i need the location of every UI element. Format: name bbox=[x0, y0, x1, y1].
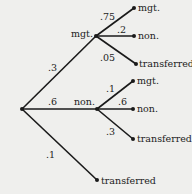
prob-root-mgt: .3 bbox=[48, 62, 57, 73]
prob-mgt-transferred: .05 bbox=[100, 52, 115, 63]
prob-mgt-mgt: .75 bbox=[100, 11, 115, 22]
leaf-non-transferred: transferred bbox=[137, 133, 192, 144]
leaf-non-non: non. bbox=[137, 103, 158, 114]
leaf-non-mgt: mgt. bbox=[137, 75, 159, 86]
label-transferred: transferred bbox=[101, 175, 156, 186]
leaf-mgt-non: non. bbox=[138, 30, 159, 41]
node-mgt bbox=[94, 34, 98, 38]
leaf-mgt-transferred: transferred bbox=[139, 58, 192, 69]
prob-root-transferred: .1 bbox=[46, 149, 55, 160]
prob-non-mgt: .1 bbox=[106, 83, 115, 94]
prob-non-non: .6 bbox=[118, 96, 127, 107]
node-transferred bbox=[95, 178, 99, 182]
node-non bbox=[95, 107, 99, 111]
node-mgt-mgt bbox=[132, 6, 136, 10]
node-mgt-non bbox=[132, 34, 136, 38]
edge-root-transferred bbox=[22, 109, 97, 180]
node-non-mgt bbox=[131, 79, 135, 83]
label-non: non. bbox=[74, 96, 95, 107]
prob-non-transferred: .3 bbox=[106, 126, 115, 137]
prob-mgt-non: .2 bbox=[117, 24, 126, 35]
probability-tree-diagram: .3 .6 .1 mgt. non. transferred .75 .2 .0… bbox=[0, 0, 192, 194]
node-non-non bbox=[131, 107, 135, 111]
prob-root-non: .6 bbox=[48, 96, 57, 107]
root-node bbox=[20, 107, 24, 111]
leaf-mgt-mgt: mgt. bbox=[138, 2, 160, 13]
label-mgt: mgt. bbox=[71, 28, 93, 39]
node-mgt-transferred bbox=[134, 62, 138, 66]
node-non-transferred bbox=[131, 137, 135, 141]
